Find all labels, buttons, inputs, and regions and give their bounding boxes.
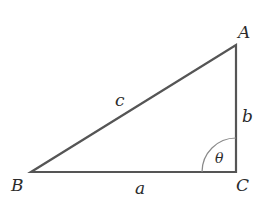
angle-label-theta: θ [215,150,224,166]
side-label-a: a [135,178,145,198]
side-label-b: b [242,106,253,126]
side-label-c: c [115,90,125,110]
triangle-outline [31,45,236,172]
vertex-label-a: A [236,22,250,42]
right-triangle-diagram: A B C a b c θ [0,0,261,206]
vertex-label-b: B [10,175,24,195]
vertex-label-c: C [236,175,249,195]
